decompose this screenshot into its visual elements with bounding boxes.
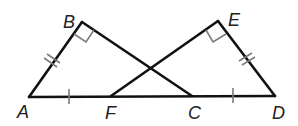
triangle-diagram: A B C D E F	[0, 0, 298, 126]
label-f: F	[105, 103, 117, 123]
label-d: D	[272, 103, 285, 123]
label-c: C	[188, 103, 202, 123]
label-a: A	[16, 102, 29, 122]
segment-ad	[29, 96, 275, 97]
right-angle-mark-b	[74, 30, 94, 42]
label-e: E	[228, 10, 241, 30]
label-b: B	[63, 12, 75, 32]
segment-bc	[82, 22, 192, 96]
segment-ed	[218, 21, 275, 96]
right-angle-mark-e	[206, 30, 226, 42]
segment-fe	[111, 21, 218, 96]
